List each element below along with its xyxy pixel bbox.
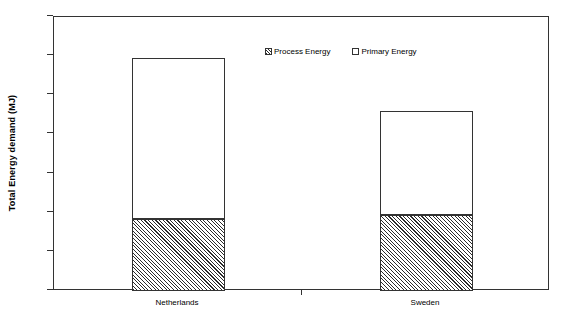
y-axis-title: Total Energy demand (MJ) bbox=[4, 16, 20, 290]
bar-segment-process-energy bbox=[132, 219, 225, 291]
plot-area bbox=[53, 16, 549, 290]
x-axis-label-netherlands: Netherlands bbox=[155, 297, 198, 308]
legend-label-process-energy: Process Energy bbox=[274, 46, 330, 57]
empty-square-icon bbox=[352, 48, 359, 55]
bar-netherlands bbox=[132, 17, 225, 291]
legend-entry-process-energy: Process Energy bbox=[265, 46, 330, 57]
energy-demand-chart: Total Energy demand (MJ) 020004000600080… bbox=[0, 0, 564, 320]
chart-legend: Process Energy Primary Energy bbox=[265, 46, 417, 57]
bar-segment-primary-energy bbox=[132, 58, 225, 218]
x-axis-label-sweden: Sweden bbox=[411, 297, 440, 308]
legend-label-primary-energy: Primary Energy bbox=[361, 46, 416, 57]
hatched-square-icon bbox=[265, 48, 272, 55]
legend-entry-primary-energy: Primary Energy bbox=[352, 46, 416, 57]
bar-segment-primary-energy bbox=[380, 111, 473, 215]
bar-sweden bbox=[380, 17, 473, 291]
bar-segment-process-energy bbox=[380, 215, 473, 291]
x-tick-mark bbox=[301, 290, 302, 295]
